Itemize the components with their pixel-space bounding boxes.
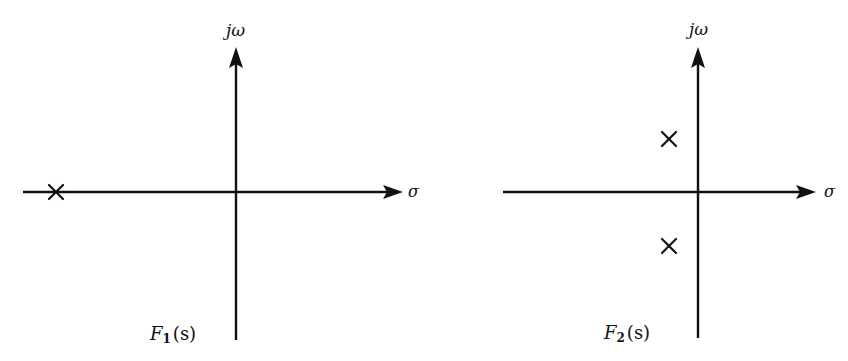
function-label-f2: F2(s) — [603, 322, 650, 345]
pole-zero-diagram: jω σ F1(s) jω σ F2(s) — [0, 0, 848, 361]
real-axis-label-f1: σ — [408, 182, 420, 201]
imag-axis-label-f1: jω — [222, 20, 245, 40]
imag-axis-label-f2: jω — [685, 19, 708, 39]
pole-marker-icon — [662, 132, 676, 146]
pole-marker-icon — [662, 239, 676, 253]
panel-f1: jω σ F1(s) — [23, 20, 420, 346]
function-label-f1: F1(s) — [149, 323, 196, 346]
panel-f2: jω σ F2(s) — [503, 19, 836, 345]
real-axis-label-f2: σ — [824, 182, 836, 201]
